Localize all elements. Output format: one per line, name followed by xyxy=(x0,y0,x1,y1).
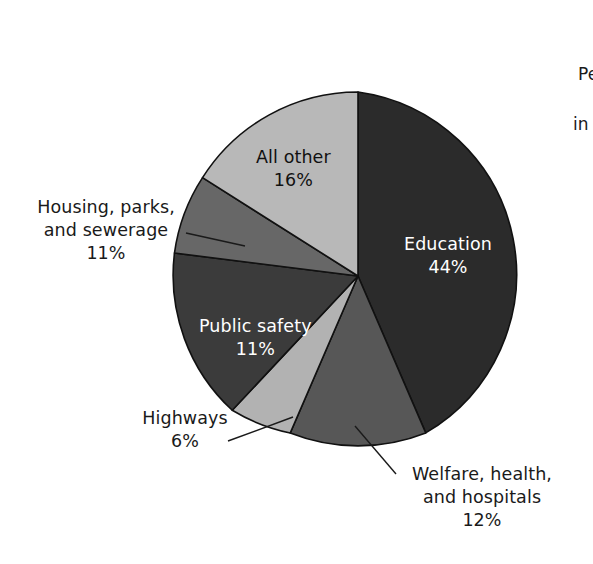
slice-label-highways: Highways 6% xyxy=(130,407,240,453)
slice-label-education: Education 44% xyxy=(404,233,492,279)
slice-label-housing-line2: and sewerage xyxy=(8,219,204,242)
slice-label-public-safety-name: Public safety xyxy=(199,315,312,338)
slice-label-welfare-line1: Welfare, health, xyxy=(390,463,574,486)
pie-chart-figure: Education 44% All other 16% Public safet… xyxy=(0,0,593,564)
slice-label-education-name: Education xyxy=(404,233,492,256)
slice-label-all-other-value: 16% xyxy=(256,169,331,192)
slice-label-all-other: All other 16% xyxy=(256,146,331,192)
slice-label-public-safety: Public safety 11% xyxy=(199,315,312,361)
slice-label-housing-value: 11% xyxy=(8,242,204,265)
slice-label-welfare-line2: and hospitals xyxy=(390,486,574,509)
slice-label-education-value: 44% xyxy=(404,256,492,279)
slice-label-welfare-health-hospitals: Welfare, health, and hospitals 12% xyxy=(390,463,574,532)
slice-label-highways-name: Highways xyxy=(130,407,240,430)
slice-label-highways-value: 6% xyxy=(130,430,240,453)
slice-label-housing-parks-sewerage: Housing, parks, and sewerage 11% xyxy=(8,196,204,265)
caption-fragment-bottom: in xyxy=(573,114,593,134)
slice-label-welfare-value: 12% xyxy=(390,509,574,532)
caption-fragment-top: Pe xyxy=(578,64,593,84)
slice-label-all-other-name: All other xyxy=(256,146,331,169)
slice-label-housing-line1: Housing, parks, xyxy=(8,196,204,219)
slice-label-public-safety-value: 11% xyxy=(199,338,312,361)
